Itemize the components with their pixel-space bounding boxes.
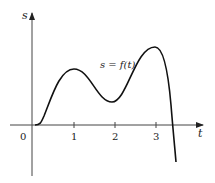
position-time-graph: s t 0 1 2 3 s = f(t) bbox=[0, 0, 215, 183]
origin-label: 0 bbox=[20, 131, 26, 142]
y-axis-label: s bbox=[22, 9, 28, 22]
tick-label-2: 2 bbox=[112, 131, 118, 142]
tick-label-3: 3 bbox=[153, 131, 159, 142]
x-axis-label: t bbox=[198, 127, 203, 140]
curve-annotation: s = f(t) bbox=[100, 59, 135, 70]
tick-label-1: 1 bbox=[71, 131, 77, 142]
